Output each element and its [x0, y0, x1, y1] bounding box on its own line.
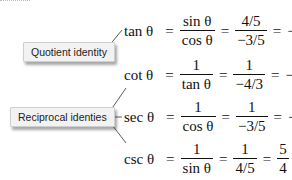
- reciprocal-identities-label: Reciprocal identies: [10, 107, 115, 127]
- lhs: cot θ: [124, 67, 153, 84]
- quotient-identity-label: Quotient identity: [23, 42, 115, 62]
- fraction: 1cos θ: [181, 100, 216, 134]
- fraction: 1sin θ: [181, 142, 213, 176]
- fraction: 1−3/5: [236, 100, 268, 134]
- fraction: sin θcos θ: [180, 14, 215, 48]
- fraction: 1−4/3: [233, 58, 265, 92]
- equation-sec: sec θ = 1cos θ = 1−3/5 = − 53: [124, 100, 292, 134]
- fraction: 14/5: [233, 142, 256, 176]
- equation-cot: cot θ = 1tan θ = 1−4/3 = − 34: [124, 58, 292, 92]
- lhs: csc θ: [124, 151, 154, 168]
- lhs: sec θ: [124, 109, 154, 126]
- fraction: 54: [277, 142, 289, 176]
- fraction: 4/5−3/5: [235, 14, 267, 48]
- equation-tan: tan θ = sin θcos θ = 4/5−3/5 = − 43: [124, 14, 292, 48]
- fraction: 1tan θ: [180, 58, 213, 92]
- lhs: tan θ: [124, 23, 153, 40]
- equation-csc: csc θ = 1sin θ = 14/5 = 54: [124, 142, 289, 176]
